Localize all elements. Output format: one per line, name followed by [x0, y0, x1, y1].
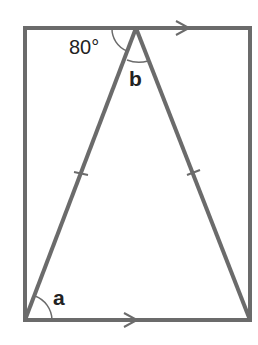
geometry-diagram: 80° b a — [0, 0, 258, 345]
triangle-right-side — [136, 28, 250, 320]
angle-arc-a — [35, 296, 52, 320]
angle-label-a: a — [53, 286, 65, 309]
angle-arc-80 — [112, 28, 127, 51]
angle-arc-b — [127, 60, 148, 62]
angle-label-80: 80° — [69, 36, 99, 58]
angle-label-b: b — [129, 67, 142, 90]
